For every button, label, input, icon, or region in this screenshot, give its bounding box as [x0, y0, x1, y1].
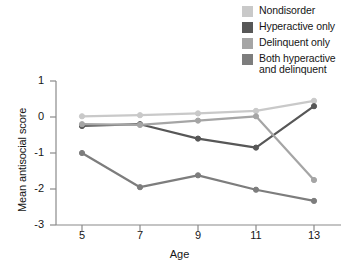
data-point	[137, 113, 142, 118]
data-point	[79, 114, 84, 119]
data-point	[311, 177, 316, 182]
data-point	[253, 114, 258, 119]
legend-item-nondisorder[interactable]: Nondisorder	[242, 5, 359, 17]
legend-item-delinquent-only[interactable]: Delinquent only	[242, 37, 359, 49]
data-point	[253, 187, 258, 192]
data-point	[79, 150, 84, 155]
data-point	[79, 122, 84, 127]
series-both-hyperactive-and-delinquent	[79, 150, 316, 203]
legend-item-hyperactive-only[interactable]: Hyperactive only	[242, 21, 359, 33]
x-tick-label: 13	[299, 229, 329, 241]
data-point	[137, 185, 142, 190]
data-point	[195, 118, 200, 123]
legend-item-label: Hyperactive only	[259, 21, 335, 32]
legend-item-label: Both hyperactive and delinquent	[259, 53, 336, 75]
y-tick-label: -2	[22, 182, 44, 194]
data-point	[253, 145, 258, 150]
data-point	[195, 111, 200, 116]
x-tick-label: 9	[183, 229, 213, 241]
data-point	[195, 173, 200, 178]
chart-legend: Nondisorder Hyperactive only Delinquent …	[242, 5, 359, 79]
x-tick-label: 11	[241, 229, 271, 241]
antisocial-score-line-chart: Mean antisocial score Age Nondisorder Hy…	[0, 0, 359, 269]
y-tick-label: -1	[22, 146, 44, 158]
x-axis-label: Age	[0, 248, 359, 260]
y-axis-label: Mean antisocial score	[16, 108, 28, 212]
x-tick-label: 7	[125, 229, 155, 241]
legend-swatch-icon	[242, 54, 253, 65]
data-point	[137, 122, 142, 127]
legend-swatch-icon	[242, 38, 253, 49]
data-point	[195, 136, 200, 141]
series-nondisorder	[79, 98, 316, 119]
data-point	[253, 108, 258, 113]
x-tick-label: 5	[67, 229, 97, 241]
legend-swatch-icon	[242, 6, 253, 17]
legend-swatch-icon	[242, 22, 253, 33]
y-tick-label: 0	[22, 110, 44, 122]
legend-item-label: Nondisorder	[259, 5, 315, 16]
y-tick-label: -3	[22, 218, 44, 230]
data-point	[311, 104, 316, 109]
y-tick-label: 1	[22, 74, 44, 86]
legend-item-both-hyperactive-and-delinquent[interactable]: Both hyperactive and delinquent	[242, 53, 359, 75]
legend-item-label: Delinquent only	[259, 37, 330, 48]
data-point	[311, 98, 316, 103]
data-point	[311, 198, 316, 203]
